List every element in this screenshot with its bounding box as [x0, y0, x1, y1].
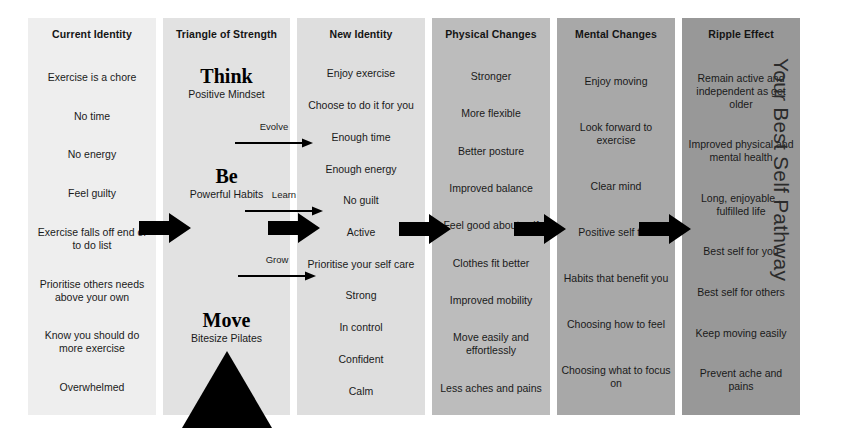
triangle-block-think: Think Positive Mindset [163, 66, 290, 100]
list-item: In control [301, 321, 420, 334]
list-item: Enough energy [301, 163, 420, 176]
arrow-current-to-triangle-icon [139, 212, 191, 244]
list-item: Enjoy exercise [301, 67, 420, 80]
list-item: Better posture [436, 145, 545, 158]
list-item: Less aches and pains [436, 382, 545, 395]
triangle-sub-move: Bitesize Pilates [163, 332, 290, 344]
evolve-arrow-label: Evolve [235, 121, 313, 132]
list-item: Calm [301, 385, 420, 398]
list-item: Feel guilty [32, 187, 151, 200]
arrow-physical-to-mental-icon [514, 213, 566, 245]
column-header-physical-changes: Physical Changes [432, 28, 550, 40]
list-item: More flexible [436, 107, 545, 120]
column-current-identity: Current Identity Exercise is a chore No … [28, 18, 156, 415]
list-item: Choosing what to focus on [561, 364, 670, 390]
list-item: Strong [301, 289, 420, 302]
learn-arrow-label: Learn [245, 189, 323, 200]
triangle-block-move: Move Bitesize Pilates [163, 310, 290, 344]
list-item: No energy [32, 148, 151, 161]
list-item: Enjoy moving [561, 75, 670, 88]
list-item: Improved mobility [436, 294, 545, 307]
list-item: Exercise is a chore [32, 71, 151, 84]
list-item: Confident [301, 353, 420, 366]
list-item: Clothes fit better [436, 257, 545, 270]
list-item: Move easily and effortlessly [436, 331, 545, 357]
triangle-word-move: Move [163, 310, 290, 331]
list-item: Look forward to exercise [561, 121, 670, 147]
diagram-canvas: Current Identity Exercise is a chore No … [0, 0, 842, 443]
column-header-ripple-effect: Ripple Effect [682, 28, 800, 40]
list-item: Clear mind [561, 180, 670, 193]
grow-arrow-label: Grow [238, 254, 316, 265]
grow-arrow: Grow [238, 256, 316, 282]
list-item: Stronger [436, 70, 545, 83]
list-item: Know you should do more exercise [32, 329, 151, 355]
evolve-arrow: Evolve [235, 123, 313, 149]
list-item: Exercise falls off end of to do list [32, 226, 151, 252]
list-item: Improved balance [436, 182, 545, 195]
list-item: No time [32, 110, 151, 123]
list-item: Choose to do it for you [301, 99, 420, 112]
triangle-icon [182, 351, 272, 428]
list-item: Overwhelmed [32, 381, 151, 394]
column-header-new-identity: New Identity [297, 28, 425, 40]
triangle-word-think: Think [163, 66, 290, 87]
column-header-mental-changes: Mental Changes [557, 28, 675, 40]
column-header-triangle-of-strength: Triangle of Strength [163, 28, 290, 40]
arrow-new-to-physical-icon [399, 213, 451, 245]
list-item: Enough time [301, 131, 420, 144]
list-item: Prioritise others needs above your own [32, 278, 151, 304]
list-item: Prioritise your self care [301, 258, 420, 271]
list-item: Habits that benefit you [561, 272, 670, 285]
list-item: Choosing how to feel [561, 318, 670, 331]
pathway-label: Your Best Self Pathway [769, 58, 793, 388]
triangle-sub-think: Positive Mindset [163, 88, 290, 100]
triangle-word-be: Be [163, 166, 290, 187]
learn-arrow: Learn [245, 191, 323, 217]
column-items-current-identity: Exercise is a chore No time No energy Fe… [30, 58, 154, 407]
column-header-current-identity: Current Identity [28, 28, 156, 40]
arrow-mental-to-ripple-icon [639, 213, 691, 245]
